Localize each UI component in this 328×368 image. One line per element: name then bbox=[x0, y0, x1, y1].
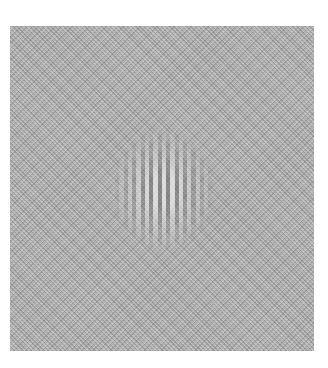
noise-field bbox=[10, 26, 314, 351]
gabor-patch bbox=[111, 128, 215, 252]
